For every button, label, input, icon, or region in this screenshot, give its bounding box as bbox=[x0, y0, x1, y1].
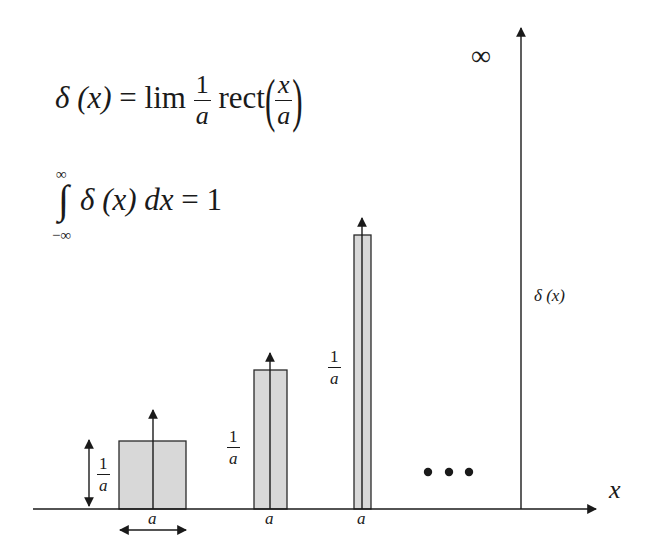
pulse-3-height-label: 1a bbox=[328, 348, 341, 387]
integration-variable: x bbox=[160, 182, 174, 217]
fraction-numerator: 1 bbox=[194, 72, 211, 98]
definition-formula: δ (x) = lim 1 a rect( x a ) bbox=[55, 72, 303, 129]
pulse-1-width-label: a bbox=[148, 509, 157, 529]
equals-sign: = bbox=[119, 80, 136, 115]
integral-body: δ (x) dx = 1 bbox=[80, 182, 222, 218]
infinity-label: ∞ bbox=[471, 40, 491, 72]
ellipsis-dots bbox=[424, 468, 473, 476]
argument-denominator: a bbox=[275, 103, 292, 129]
left-paren: ( bbox=[265, 66, 275, 134]
integral-sign: ∫ bbox=[58, 176, 69, 223]
integral-lower-limit: −∞ bbox=[52, 227, 71, 244]
right-paren: ) bbox=[292, 66, 302, 134]
pulse-1-height-label: 1a bbox=[97, 455, 110, 494]
argument-numerator: x bbox=[276, 72, 292, 98]
height-numerator: 1 bbox=[328, 348, 341, 365]
fraction-denominator: a bbox=[194, 103, 211, 129]
lim-operator: lim bbox=[145, 80, 186, 115]
fraction-bar bbox=[328, 367, 341, 368]
integral-result: = 1 bbox=[181, 182, 222, 217]
integrand-delta: δ (x) d bbox=[80, 182, 160, 217]
pulse-2-width-label: a bbox=[265, 509, 274, 529]
height-numerator: 1 bbox=[97, 455, 110, 472]
x-axis-label: x bbox=[609, 475, 621, 505]
rect-function: rect bbox=[218, 80, 264, 115]
one-over-a-fraction: 1 a bbox=[194, 72, 211, 129]
height-denominator: a bbox=[328, 370, 341, 387]
height-denominator: a bbox=[97, 477, 110, 494]
pulse-2-height-label: 1a bbox=[227, 428, 240, 467]
delta-axis-label: δ (x) bbox=[534, 286, 565, 306]
fraction-bar bbox=[227, 447, 240, 448]
height-denominator: a bbox=[227, 450, 240, 467]
delta-lhs: δ (x) bbox=[55, 80, 112, 115]
x-over-a-fraction: x a bbox=[275, 72, 292, 129]
pulse-3-width-label: a bbox=[357, 509, 366, 529]
height-numerator: 1 bbox=[227, 428, 240, 445]
fraction-bar bbox=[97, 474, 110, 475]
